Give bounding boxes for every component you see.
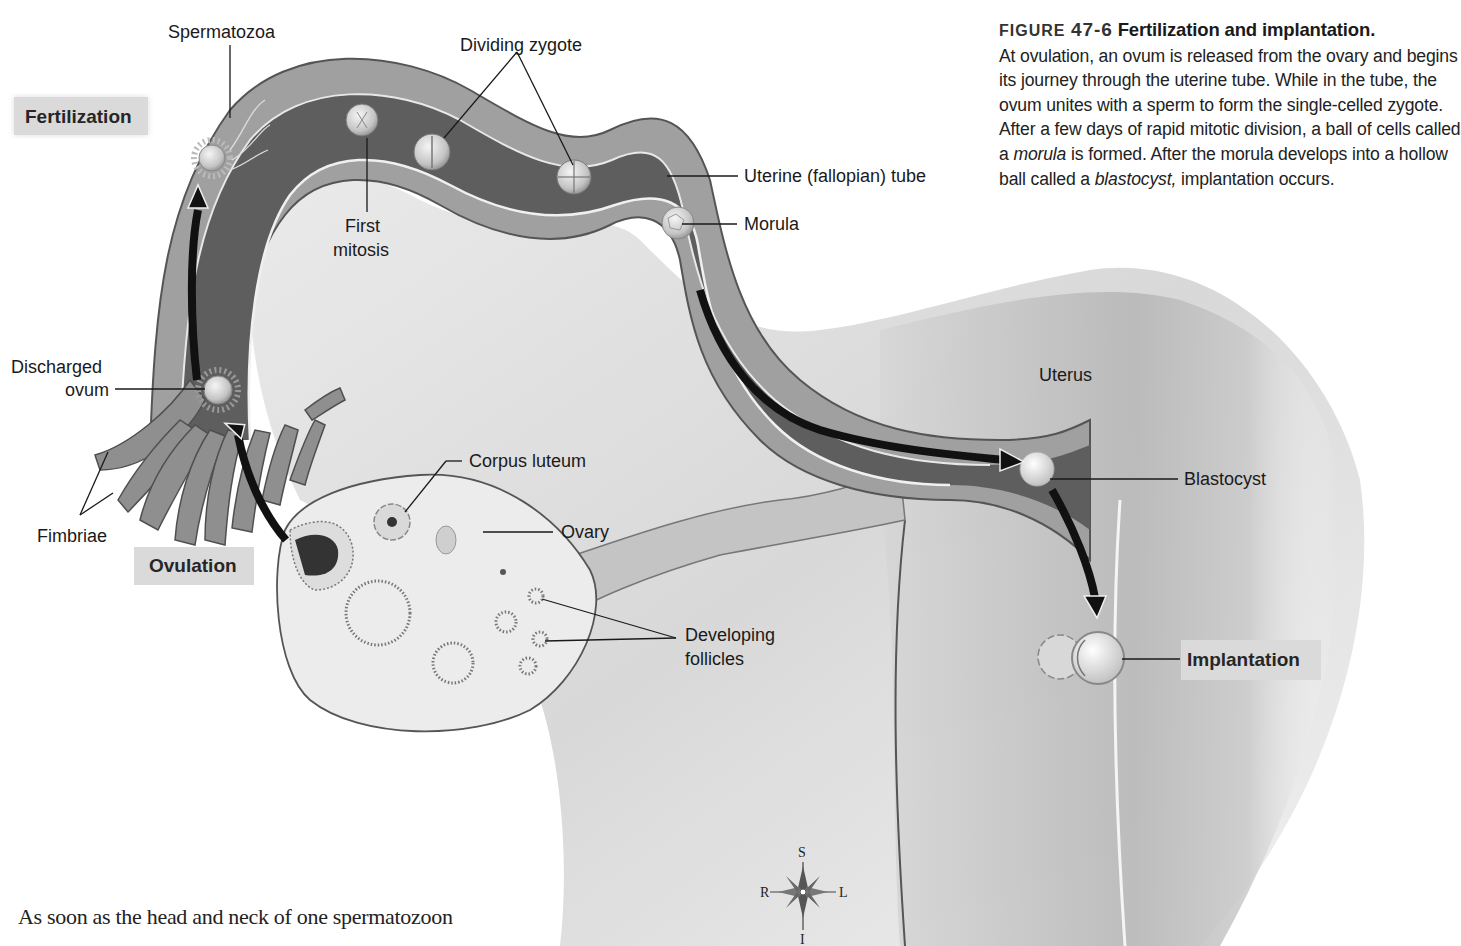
caption-term-morula: morula [1013,144,1066,164]
svg-text:Fertilization: Fertilization [25,106,132,127]
corpus-luteum [374,504,410,540]
label-uterus: Uterus [1039,365,1092,385]
svg-text:S: S [798,845,806,860]
caption-text-3: implantation occurs. [1176,169,1334,189]
stage-label-fertilization: Fertilization [14,97,148,135]
label-developing-follicles-2: follicles [685,649,744,669]
stage-label-ovulation: Ovulation [134,547,254,585]
label-spermatozoa: Spermatozoa [168,22,276,42]
figure-caption: FIGURE 47-6 Fertilization and implantati… [999,18,1461,191]
body-text: As soon as the head and neck of one sper… [18,904,453,930]
label-corpus-luteum: Corpus luteum [469,451,586,471]
first-mitosis-cell [346,104,378,136]
four-cell-zygote [557,160,591,194]
two-cell-zygote [414,134,450,170]
label-first-mitosis-1: First [345,216,380,236]
implanting-blastocyst [1038,632,1124,684]
figure-number: FIGURE 47-6 [999,22,1113,39]
label-ovary: Ovary [561,522,609,542]
figure-title: Fertilization and implantation. [1118,19,1375,40]
label-blastocyst: Blastocyst [1184,469,1266,489]
stage-label-implantation: Implantation [1181,640,1321,680]
label-fimbriae: Fimbriae [37,526,107,546]
svg-text:I: I [800,932,805,946]
label-dividing-zygote: Dividing zygote [460,35,582,55]
caption-term-blastocyst: blastocyst, [1095,169,1176,189]
label-first-mitosis-2: mitosis [333,240,389,260]
blastocyst-cell [1020,452,1054,486]
label-discharged-ovum-2: ovum [65,380,109,400]
svg-text:Implantation: Implantation [1187,649,1300,670]
label-discharged-ovum-1: Discharged [11,357,102,377]
label-uterine-tube: Uterine (fallopian) tube [744,166,926,186]
svg-text:Ovulation: Ovulation [149,555,237,576]
label-morula: Morula [744,214,800,234]
svg-text:L: L [839,885,848,900]
svg-text:R: R [760,885,770,900]
label-developing-follicles-1: Developing [685,625,775,645]
morula-cell [662,207,694,239]
